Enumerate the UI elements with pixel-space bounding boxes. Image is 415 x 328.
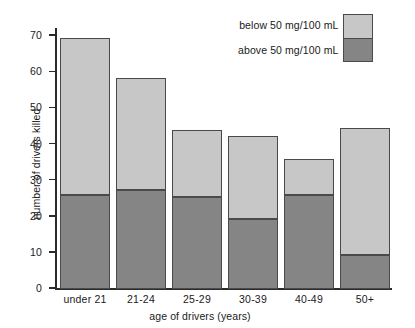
y-axis-tick-label: 0 xyxy=(36,282,42,294)
y-axis-line xyxy=(55,28,57,289)
y-axis-tick xyxy=(49,107,56,109)
bar-segment-above-50 xyxy=(116,190,166,289)
bar-30-39 xyxy=(228,136,278,289)
bar-25-29 xyxy=(172,130,222,289)
y-axis-tick xyxy=(49,287,56,289)
y-axis-tick xyxy=(49,34,56,36)
legend-labels: below 50 mg/100 mLabove 50 mg/100 mL xyxy=(238,14,343,62)
legend-label: above 50 mg/100 mL xyxy=(238,39,338,62)
legend-swatch xyxy=(344,15,372,38)
legend-swatches xyxy=(343,14,373,62)
bar-segment-below-50 xyxy=(228,136,278,219)
y-axis-tick-label: 70 xyxy=(30,29,42,41)
x-axis-title: age of drivers (years) xyxy=(55,310,345,322)
legend-label: below 50 mg/100 mL xyxy=(238,14,338,37)
bar-segment-below-50 xyxy=(340,128,390,254)
y-axis-tick xyxy=(49,179,56,181)
bar-segment-above-50 xyxy=(340,255,390,289)
bar-segment-above-50 xyxy=(284,195,334,289)
bar-segment-below-50 xyxy=(60,38,110,195)
bar-segment-below-50 xyxy=(172,130,222,197)
bar-chart: 010203040506070 number of drivers killed… xyxy=(0,0,415,328)
y-axis-tick xyxy=(49,251,56,253)
y-axis-tick-label: 10 xyxy=(30,246,42,258)
bar-50- xyxy=(340,128,390,289)
x-axis-category-label: 50+ xyxy=(330,293,400,305)
legend-swatch xyxy=(344,38,372,61)
bar-segment-above-50 xyxy=(172,197,222,289)
y-axis-title: number of drivers killed xyxy=(30,84,42,244)
y-axis-tick xyxy=(49,143,56,145)
bar-21-24 xyxy=(116,78,166,289)
y-axis-tick xyxy=(49,215,56,217)
y-axis-tick xyxy=(49,71,56,73)
legend: below 50 mg/100 mLabove 50 mg/100 mL xyxy=(238,14,373,62)
bar-segment-below-50 xyxy=(116,78,166,190)
bar-segment-above-50 xyxy=(60,195,110,289)
bar-segment-above-50 xyxy=(228,219,278,289)
bar-40-49 xyxy=(284,159,334,289)
y-axis-tick-label: 60 xyxy=(30,65,42,77)
bar-under-21 xyxy=(60,38,110,289)
bar-segment-below-50 xyxy=(284,159,334,195)
